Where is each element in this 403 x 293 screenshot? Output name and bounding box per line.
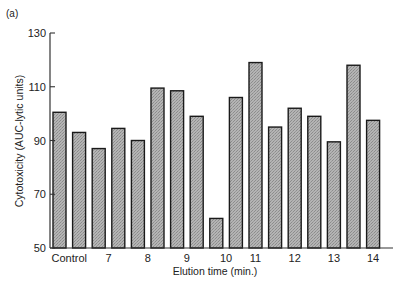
bar (249, 63, 262, 248)
x-tick-label: 8 (145, 252, 151, 264)
y-tick-label: 110 (28, 81, 46, 93)
x-tick-label: 11 (250, 252, 261, 264)
y-tick-label: 90 (34, 135, 46, 147)
y-tick-label: 50 (34, 242, 46, 254)
bar (73, 132, 86, 248)
x-tick-label: 14 (367, 252, 379, 264)
x-tick-label: Control (52, 252, 87, 264)
bar (53, 112, 66, 248)
bar (131, 141, 144, 249)
bar (112, 128, 125, 248)
bar (190, 116, 203, 248)
x-tick-label: 12 (289, 252, 301, 264)
bars-group (53, 63, 380, 248)
bar (327, 142, 340, 248)
bar (171, 91, 184, 248)
y-tick-label: 130 (28, 27, 46, 39)
bar (288, 108, 301, 248)
bar (210, 218, 223, 248)
bar-chart: 507090110130Control7891011121314 (0, 0, 403, 293)
x-tick-label: 9 (184, 252, 190, 264)
bar (269, 127, 282, 248)
bar (367, 120, 380, 248)
bar (308, 116, 321, 248)
x-tick-label: 10 (220, 252, 232, 264)
x-tick-label: 13 (328, 252, 340, 264)
bar (92, 149, 105, 248)
bar (347, 65, 360, 248)
bar (229, 98, 242, 249)
bar (151, 88, 164, 248)
y-tick-label: 70 (34, 188, 46, 200)
x-tick-label: 7 (105, 252, 111, 264)
